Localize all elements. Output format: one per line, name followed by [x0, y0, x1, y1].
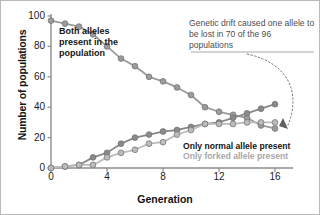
data-point [272, 120, 278, 126]
data-point [160, 139, 166, 145]
annotation-both-alleles: Both alleles present in the population [59, 26, 137, 60]
drift-callout-arrow [191, 52, 314, 129]
x-tick-label: 12 [206, 171, 232, 182]
data-point [62, 164, 68, 170]
data-point [118, 141, 124, 147]
data-point [230, 115, 236, 121]
data-point [244, 110, 250, 116]
data-point [146, 74, 152, 80]
x-axis-title: Generation [51, 193, 279, 205]
data-point [174, 85, 180, 91]
data-point [132, 63, 138, 69]
data-point [244, 120, 250, 126]
data-point [188, 92, 194, 98]
x-tick-label: 0 [38, 171, 64, 182]
x-tick-label: 4 [94, 171, 120, 182]
data-point [90, 162, 96, 168]
legend-label-forked-allele: Only forked allele present [183, 151, 288, 161]
data-point [230, 121, 236, 127]
data-point [188, 127, 194, 133]
data-point [272, 126, 278, 132]
data-point [272, 101, 278, 107]
y-tick-label: 80 [19, 40, 45, 51]
x-tick-label: 8 [150, 171, 176, 182]
data-point [160, 129, 166, 135]
data-point [202, 121, 208, 127]
data-point [258, 106, 264, 112]
x-tick-label: 16 [262, 171, 288, 182]
data-point [90, 154, 96, 160]
data-point [118, 150, 124, 156]
data-point [174, 132, 180, 138]
data-point [146, 141, 152, 147]
data-point [132, 135, 138, 141]
data-point [202, 104, 208, 110]
y-tick-label: 100 [19, 10, 45, 21]
data-point [48, 18, 54, 24]
data-point [76, 162, 82, 168]
data-point [146, 132, 152, 138]
legend-label-normal-allele: Only normal allele present [183, 141, 290, 151]
figure-panel: Number of populations Generation 0204060… [0, 0, 320, 215]
y-tick-label: 40 [19, 101, 45, 112]
y-tick-label: 20 [19, 132, 45, 143]
data-point [258, 120, 264, 126]
data-point [216, 109, 222, 115]
data-point [104, 154, 110, 160]
data-point [216, 121, 222, 127]
data-point [132, 147, 138, 153]
y-tick-label: 60 [19, 71, 45, 82]
annotation-genetic-drift: Genetic drift caused one allele to be lo… [189, 18, 317, 51]
data-point [160, 78, 166, 84]
